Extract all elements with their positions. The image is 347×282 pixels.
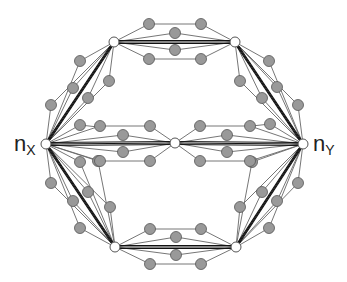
gray-node [265,119,276,130]
gray-node [46,178,57,189]
label-base: n [14,131,26,156]
hub-node-br [231,242,241,252]
gray-node [104,76,115,87]
node-label-ny: nY [313,133,335,157]
gray-node [245,121,256,132]
thick-edge [46,143,175,144]
hub-node-c [170,138,180,148]
hub-node-tr [230,37,240,47]
gray-node [145,121,156,132]
thick-edge [175,145,303,146]
gray-node [272,196,283,207]
gray-node [235,76,246,87]
node-label-nx: nX [14,133,36,157]
hub-node-tl [109,37,119,47]
thick-edge [46,145,175,146]
gray-node [195,121,206,132]
gray-node [222,130,233,141]
hub-nodes [41,37,308,252]
gray-node [68,83,79,94]
gray-node [257,187,268,198]
label-base: n [313,131,325,156]
gray-node [46,100,57,111]
gray-node [222,147,233,158]
gray-node [293,178,304,189]
gray-node [75,56,86,67]
hub-node-bl [110,242,120,252]
gray-node [257,93,268,104]
gray-node [68,196,79,207]
gray-node [75,120,86,131]
gray-node [264,223,275,234]
gray-node [95,156,106,167]
label-subscript: X [26,142,35,158]
gray-node [83,93,94,104]
gray-node [118,147,129,158]
gray-node [144,19,155,30]
gray-node [95,121,106,132]
label-subscript: Y [325,142,334,158]
gray-node [170,45,181,56]
gray-node [145,156,156,167]
hub-node-nY [298,139,308,149]
gray-node [170,28,181,39]
gray-node [196,259,207,270]
gray-node [171,232,182,243]
gray-node [272,82,283,93]
gray-node [145,259,156,270]
gray-node [118,130,129,141]
gray-node [83,187,94,198]
gray-node [144,54,155,65]
network-diagram [0,0,347,282]
gray-node [75,223,86,234]
gray-node [245,156,256,167]
gray-node [293,100,304,111]
gray-node [235,202,246,213]
gray-node [75,157,86,168]
gray-node [145,224,156,235]
gray-node [264,56,275,67]
hub-node-nX [41,139,51,149]
gray-node [196,19,207,30]
gray-node [196,54,207,65]
gray-node [105,202,116,213]
thick-edge [175,143,303,144]
gray-node [196,224,207,235]
gray-node [171,250,182,261]
gray-node [195,156,206,167]
